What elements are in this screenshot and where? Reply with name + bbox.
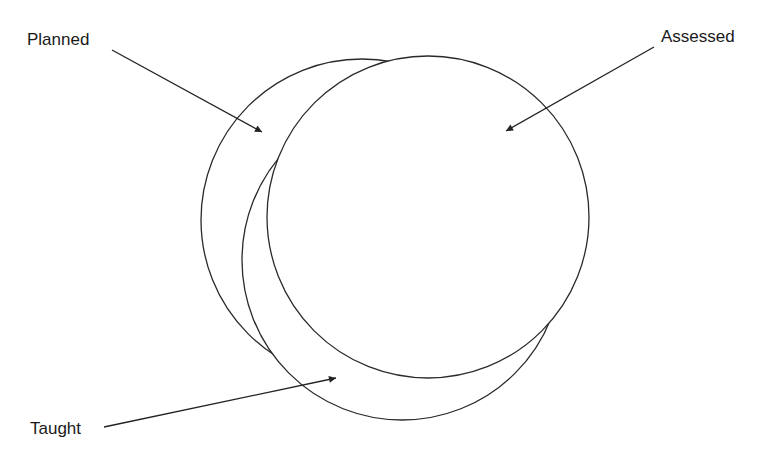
planned-arrow: [112, 50, 262, 132]
taught-arrow: [104, 378, 336, 427]
taught-label: Taught: [30, 420, 81, 437]
assessed-label: Assessed: [661, 28, 735, 45]
planned-label: Planned: [27, 31, 89, 48]
curriculum-diagram: [0, 0, 783, 458]
assessed-arrow: [506, 47, 654, 131]
assessed-circle: [267, 56, 589, 378]
